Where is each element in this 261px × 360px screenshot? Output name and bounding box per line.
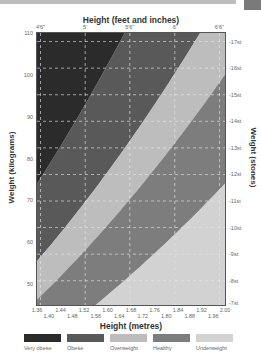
top-tick-label: 6' bbox=[173, 24, 177, 30]
metre-tick-label: 1.88 bbox=[184, 313, 195, 319]
legend-label: Overweight bbox=[110, 345, 147, 351]
metre-tick-label: 2.00 bbox=[220, 307, 231, 313]
kg-tick-label: 90 bbox=[18, 114, 33, 120]
stone-tick-label: -11st bbox=[229, 198, 241, 204]
stone-tick-label: -12st bbox=[229, 171, 241, 177]
stone-tick-label: -9st bbox=[229, 251, 238, 257]
stone-tick-label: -13st bbox=[229, 145, 241, 151]
metre-tick-label: 1.72 bbox=[137, 313, 148, 319]
top-tick-label: 5' bbox=[83, 24, 87, 30]
legend: Very obeseObeseOverweightHealthyUnderwei… bbox=[24, 334, 233, 351]
corner-tab bbox=[244, 0, 261, 10]
kg-tick-label: 60 bbox=[18, 239, 33, 245]
stone-tick-label: -14st bbox=[229, 118, 241, 124]
metre-tick-label: 1.60 bbox=[102, 307, 113, 313]
kg-tick-label: 110 bbox=[18, 30, 33, 36]
top-bar bbox=[0, 0, 236, 4]
stone-tick-label: -8st bbox=[229, 278, 238, 284]
metre-tick-label: 1.40 bbox=[43, 313, 54, 319]
bottom-axis-title: Height (metres) bbox=[36, 321, 226, 331]
bmi-bands bbox=[37, 33, 225, 305]
stone-tick-label: -16st bbox=[229, 65, 241, 71]
metre-tick-label: 1.52 bbox=[79, 307, 90, 313]
legend-swatch bbox=[196, 334, 233, 342]
right-axis-title: Weight (stones) bbox=[249, 103, 258, 213]
legend-item: Healthy bbox=[153, 334, 190, 351]
metre-tick-label: 1.64 bbox=[114, 313, 125, 319]
legend-swatch bbox=[110, 334, 147, 342]
kg-tick-label: 50 bbox=[18, 281, 33, 287]
metre-tick-label: 1.44 bbox=[55, 307, 66, 313]
legend-item: Underweight bbox=[196, 334, 233, 351]
bmi-plot-area bbox=[36, 32, 226, 306]
legend-label: Obese bbox=[67, 345, 104, 351]
metre-tick-label: 1.80 bbox=[161, 313, 172, 319]
legend-label: Underweight bbox=[196, 345, 233, 351]
top-tick-label: 5'6" bbox=[125, 24, 134, 30]
metre-tick-label: 1.76 bbox=[149, 307, 160, 313]
kg-tick-label: 80 bbox=[18, 156, 33, 162]
metre-tick-label: 1.92 bbox=[196, 307, 207, 313]
metre-tick-label: 1.48 bbox=[67, 313, 78, 319]
metre-tick-label: 1.68 bbox=[126, 307, 137, 313]
legend-label: Very obese bbox=[24, 345, 61, 351]
stone-tick-label: -15st bbox=[229, 92, 241, 98]
legend-swatch bbox=[153, 334, 190, 342]
kg-tick-label: 70 bbox=[18, 197, 33, 203]
legend-label: Healthy bbox=[153, 345, 190, 351]
top-tick-label: 6'6" bbox=[215, 24, 224, 30]
legend-swatch bbox=[24, 334, 61, 342]
metre-tick-label: 1.84 bbox=[173, 307, 184, 313]
legend-swatch bbox=[67, 334, 104, 342]
legend-item: Overweight bbox=[110, 334, 147, 351]
stone-tick-label: -7st bbox=[229, 300, 238, 306]
legend-item: Very obese bbox=[24, 334, 61, 351]
legend-item: Obese bbox=[67, 334, 104, 351]
stone-tick-label: -17st bbox=[229, 39, 241, 45]
kg-tick-label: 100 bbox=[18, 72, 33, 78]
metre-tick-label: 1.56 bbox=[90, 313, 101, 319]
left-axis-title: Weight (kilograms) bbox=[7, 113, 16, 223]
metre-tick-label: 1.36 bbox=[32, 307, 43, 313]
stone-tick-label: -10st bbox=[229, 225, 241, 231]
metre-tick-label: 1.96 bbox=[208, 313, 219, 319]
top-tick-label: 4'6" bbox=[36, 24, 45, 30]
